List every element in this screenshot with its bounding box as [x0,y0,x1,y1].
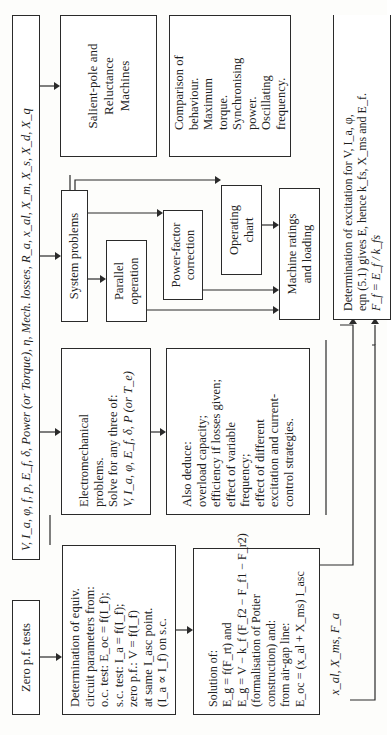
comparison-line-7: frequency. [274,23,289,130]
electro-line-0: Electromechanical [77,356,92,507]
deduce-line-7: control strategies. [282,356,297,507]
ratings-line-1: and loading [300,225,315,284]
pf-line-0: Power-factor [169,223,184,288]
equiv-line-5: at same I_asc point. [141,553,156,707]
deduce-line-1: overload capacity; [195,356,210,507]
electro-line-2: Solve for any three of: [106,356,121,507]
equiv-line-4: zero p.f.: V = f(I_f) [126,553,141,707]
equiv-line-0: Determination of equiv. [68,553,83,707]
pf-line-1: correction [183,230,198,281]
excitation-box: Determination of excitation for V, I_a, … [333,15,391,320]
chart-line-1: chart [242,218,257,243]
solution-line-1: E_g = f(F_rt) and [220,556,235,707]
deduce-line-5: effect of different [253,356,268,507]
also-deduce-box: Also deduce: overload capacity; efficien… [166,348,310,515]
parameters-text: V, I_a, φ, f, p, E_f, δ, Power (or Torqu… [19,24,34,551]
power-factor-box: Power-factor correction [163,210,203,300]
comparison-line-6: Oscillating [259,23,274,130]
excitation-line-1: eqn (5.1) gives E, hence k_fs, X_ms and … [355,23,369,311]
system-problems-box: System problems [61,190,88,322]
equiv-circuit-box: Determination of equiv. circuit paramete… [62,545,176,715]
solution-line-6: E_oc = (x_al + X_ms) I_asc [293,556,308,707]
comparison-line-1: behaviour. [187,23,202,130]
excitation-line-0: Determination of excitation for V, I_a, … [341,23,355,311]
comparison-line-4: Synchronising [230,23,245,130]
chart-line-0: Operating [227,205,242,255]
comparison-line-0: Comparison of [172,23,187,130]
solution-line-0: Solution of: [206,556,221,707]
zero-pf-tests-label: Zero p.f. tests [19,623,34,692]
outputs-label: x_al, X_ms, F_a [328,613,343,695]
excitation-line-2: F_f = E_f / k_fs [369,23,383,311]
comparison-line-5: power. [245,23,260,130]
machine-ratings-box: Machine ratings and loading [279,188,320,320]
parameters-bar: V, I_a, φ, f, p, E_f, δ, Power (or Torqu… [12,15,40,560]
equiv-line-3: s.c. test: I_a = f(I_f); [112,553,127,707]
deduce-line-0: Also deduce: [180,356,195,507]
comparison-line-2: Maximum [201,23,216,130]
solution-line-2: E_g = V − k_f (F_f2 − F_f1 − F_r2) [235,556,250,707]
salient-pole-box: Salient-pole and Reluctance Machines [60,15,157,157]
deduce-line-4: frequency; [238,356,253,507]
equiv-line-6: (I_a ∝ I_f) on s.c. [155,553,170,707]
salient-line-0: Salient-pole and [85,44,101,129]
electro-line-3: V, I_a, φ, E_f, δ, P (or T_e) [121,356,136,507]
parallel-line-1: operation [127,257,142,304]
equiv-line-2: o.c. test: E_oc = f(I_f); [97,553,112,707]
zero-pf-tests-box: Zero p.f. tests [12,600,40,715]
solution-line-3: (formalisation of Potier [249,556,264,707]
electromechanical-box: Electromechanical problems. Solve for an… [61,348,151,515]
electro-line-1: problems. [92,356,107,507]
parallel-operation-box: Parallel operation [106,240,147,322]
solution-box: Solution of: E_g = f(F_rt) and E_g = V −… [193,548,320,715]
equiv-line-1: circuit parameters from: [83,553,98,707]
comparison-box: Comparison of behaviour. Maximum torque.… [169,15,291,157]
deduce-line-3: effect of variable [224,356,239,507]
salient-line-2: Machines [117,61,133,112]
deduce-line-6: excitation and current- [267,356,282,507]
parallel-line-0: Parallel [112,262,127,300]
solution-line-5: from air-gap line: [278,556,293,707]
deduce-line-2: efficiency if losses given; [209,356,224,507]
comparison-line-3: torque. [216,23,231,130]
salient-line-1: Reluctance [101,57,117,115]
ratings-line-0: Machine ratings [285,214,300,295]
operating-chart-box: Operating chart [221,185,262,275]
system-problems-label: System problems [67,213,82,299]
solution-line-4: construction) and: [264,556,279,707]
